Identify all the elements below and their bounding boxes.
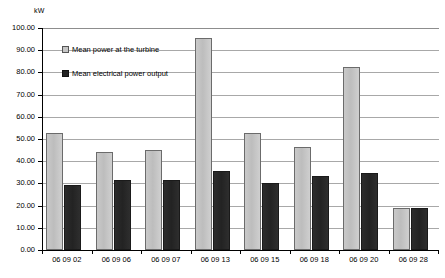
bar-group — [291, 28, 341, 250]
x-axis-tick-mark — [290, 250, 291, 254]
y-axis-unit-label: kW — [34, 6, 45, 15]
x-axis-tick-label: 06 09 07 — [141, 255, 191, 265]
x-axis-tick-mark — [240, 250, 241, 254]
legend-swatch-icon-series-a — [62, 46, 69, 53]
bar-chart: kW 100.0090.0080.0070.0060.0050.0040.003… — [0, 0, 445, 278]
x-axis-tick-label: 06 09 18 — [290, 255, 340, 265]
y-axis-labels: 100.0090.0080.0070.0060.0050.0040.0030.0… — [0, 28, 42, 250]
x-axis-tick-mark — [339, 250, 340, 254]
x-axis-tick-mark — [191, 250, 192, 254]
bar-series-b — [262, 183, 279, 250]
x-axis-tick-label: 06 09 02 — [42, 255, 92, 265]
y-axis-tick-label: 20.00 — [16, 202, 35, 210]
bar-group — [340, 28, 390, 250]
bar-series-a — [195, 38, 212, 250]
y-axis-tick-label: 80.00 — [16, 68, 35, 76]
x-axis-tick-label: 06 09 15 — [240, 255, 290, 265]
legend-label-series-a: Mean power at the turbine — [72, 45, 159, 54]
y-axis-tick-label: 30.00 — [16, 179, 35, 187]
x-axis-tick-label: 06 09 06 — [92, 255, 142, 265]
x-axis-ticks — [42, 250, 439, 254]
bar-series-a — [145, 150, 162, 250]
bar-group — [241, 28, 291, 250]
x-axis-tick-mark — [141, 250, 142, 254]
bar-series-b — [312, 176, 329, 250]
x-axis-tick-mark — [92, 250, 93, 254]
x-axis-tick-label: 06 09 20 — [339, 255, 389, 265]
bar-group — [390, 28, 440, 250]
legend-item-series-b: Mean electrical power output — [62, 68, 168, 79]
x-axis-tick-mark — [42, 250, 43, 254]
x-axis-tick-label: 06 09 13 — [191, 255, 241, 265]
legend-label-series-b: Mean electrical power output — [72, 69, 168, 78]
legend-swatch-icon-series-b — [62, 70, 69, 77]
bar-group — [192, 28, 242, 250]
y-axis-tick-label: 40.00 — [16, 157, 35, 165]
bar-series-a — [343, 67, 360, 250]
y-axis-tick-label: 60.00 — [16, 113, 35, 121]
bar-series-b — [213, 171, 230, 250]
chart-legend: Mean power at the turbine Mean electrica… — [62, 44, 168, 92]
y-axis-tick-label: 90.00 — [16, 46, 35, 54]
bar-series-b — [163, 180, 180, 250]
bar-series-a — [46, 133, 63, 250]
y-axis-tick-label: 50.00 — [16, 135, 35, 143]
x-axis-tick-mark — [389, 250, 390, 254]
bar-series-b — [114, 180, 131, 250]
bar-series-b — [64, 185, 81, 250]
bar-series-a — [96, 152, 113, 250]
y-axis-tick-label: 0.00 — [20, 246, 35, 254]
bar-series-b — [361, 173, 378, 250]
y-axis-tick-label: 100.00 — [12, 24, 35, 32]
y-axis-tick-label: 10.00 — [16, 224, 35, 232]
legend-item-series-a: Mean power at the turbine — [62, 44, 168, 55]
bar-series-a — [393, 208, 410, 250]
bar-series-a — [294, 147, 311, 250]
bar-series-b — [411, 208, 428, 250]
x-axis-tick-label: 06 09 28 — [389, 255, 439, 265]
y-axis-tick-label: 70.00 — [16, 91, 35, 99]
x-axis-tick-mark — [438, 250, 439, 254]
bar-series-a — [244, 133, 261, 250]
x-axis-labels: 06 09 0206 09 0606 09 0706 09 1306 09 15… — [42, 255, 438, 269]
